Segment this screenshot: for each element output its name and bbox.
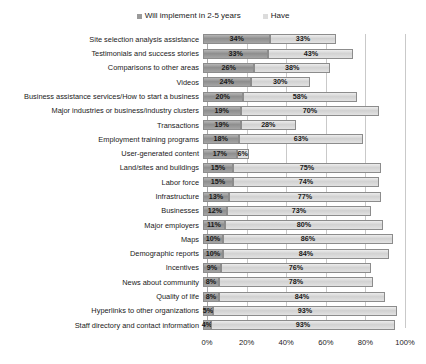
bar-segment-will-implement[interactable]: 9%	[203, 263, 221, 273]
bar-row: Labor force15%74%	[0, 175, 426, 190]
bar-value-label: 17%	[213, 150, 227, 158]
bar-segment-will-implement[interactable]: 12%	[203, 206, 227, 216]
bar-value-label: 78%	[289, 278, 303, 286]
bar-track: 26%38%	[203, 63, 401, 73]
bar-segment-will-implement[interactable]: 11%	[203, 220, 225, 230]
bar-row: News about community8%78%	[0, 275, 426, 290]
x-axis-tick-label: 60%	[318, 338, 333, 348]
bar-segment-will-implement[interactable]: 33%	[203, 49, 268, 59]
bar-value-label: 86%	[301, 235, 315, 243]
category-label: Demographic reports	[0, 249, 203, 258]
bar-segment-have[interactable]: 70%	[241, 106, 380, 116]
bar-value-label: 19%	[215, 107, 229, 115]
bar-track: 10%84%	[203, 249, 401, 259]
bar-value-label: 15%	[211, 178, 225, 186]
bar-value-label: 58%	[293, 93, 307, 101]
bar-segment-have[interactable]: 78%	[219, 277, 373, 287]
x-axis: 0%20%40%60%80%100%	[207, 336, 405, 350]
bar-segment-will-implement[interactable]: 19%	[203, 106, 241, 116]
bar-value-label: 84%	[295, 293, 309, 301]
bar-row: User-generated content17%6%	[0, 146, 426, 161]
bar-track: 13%77%	[203, 192, 401, 202]
category-label: Site selection analysis assistance	[0, 35, 203, 44]
bar-row: Maps10%86%	[0, 232, 426, 247]
bar-row: Site selection analysis assistance34%33%	[0, 32, 426, 47]
category-label: Maps	[0, 235, 203, 244]
legend-item-will-implement: Will implement in 2-5 years	[137, 11, 241, 21]
bar-segment-have[interactable]: 75%	[233, 163, 382, 173]
bar-segment-have[interactable]: 84%	[219, 292, 385, 302]
bar-value-label: 93%	[298, 307, 312, 315]
legend-item-label: Will implement in 2-5 years	[145, 11, 241, 21]
bar-segment-will-implement[interactable]: 17%	[203, 149, 237, 159]
bar-segment-will-implement[interactable]: 19%	[203, 120, 241, 130]
bar-segment-will-implement[interactable]: 20%	[203, 92, 243, 102]
bar-segment-have[interactable]: 30%	[251, 77, 310, 87]
bar-segment-have[interactable]: 33%	[270, 34, 335, 44]
category-label: Comparisons to other areas	[0, 63, 203, 72]
bar-row: Hyperlinks to other organizations5%93%	[0, 303, 426, 318]
bar-segment-will-implement[interactable]: 8%	[203, 277, 219, 287]
bar-row: Staff directory and contact information4…	[0, 318, 426, 333]
bar-value-label: 93%	[296, 321, 310, 329]
bar-track: 12%73%	[203, 206, 401, 216]
category-label: News about community	[0, 278, 203, 287]
bar-segment-have[interactable]: 93%	[213, 306, 397, 316]
bar-segment-will-implement[interactable]: 18%	[203, 134, 239, 144]
legend-item-have: Have	[263, 11, 290, 21]
bar-rows: Site selection analysis assistance34%33%…	[0, 32, 426, 332]
bar-segment-will-implement[interactable]: 4%	[203, 320, 211, 330]
legend-square-icon	[137, 14, 142, 19]
bar-track: 19%70%	[203, 106, 401, 116]
bar-segment-have[interactable]: 6%	[237, 149, 249, 159]
bar-segment-have[interactable]: 80%	[225, 220, 383, 230]
bar-segment-will-implement[interactable]: 15%	[203, 163, 233, 173]
bar-segment-will-implement[interactable]: 13%	[203, 192, 229, 202]
bar-value-label: 76%	[289, 264, 303, 272]
bar-segment-have[interactable]: 58%	[243, 92, 358, 102]
category-label: Quality of life	[0, 292, 203, 301]
chart-legend: Will implement in 2-5 years Have	[0, 8, 426, 24]
bar-track: 4%93%	[203, 320, 401, 330]
stacked-bar-chart: Site selection analysis assistance34%33%…	[0, 30, 426, 336]
bar-segment-will-implement[interactable]: 8%	[203, 292, 219, 302]
bar-track: 33%43%	[203, 49, 401, 59]
bar-segment-will-implement[interactable]: 10%	[203, 234, 223, 244]
category-label: Businesses	[0, 206, 203, 215]
bar-segment-have[interactable]: 74%	[233, 177, 380, 187]
bar-segment-will-implement[interactable]: 15%	[203, 177, 233, 187]
bar-track: 11%80%	[203, 220, 401, 230]
bar-segment-have[interactable]: 63%	[239, 134, 364, 144]
bar-segment-will-implement[interactable]: 34%	[203, 34, 270, 44]
bar-track: 18%63%	[203, 134, 401, 144]
bar-value-label: 74%	[299, 178, 313, 186]
bar-segment-have[interactable]: 73%	[227, 206, 372, 216]
bar-track: 19%28%	[203, 120, 401, 130]
category-label: Major employers	[0, 221, 203, 230]
bar-track: 8%78%	[203, 277, 401, 287]
bar-segment-will-implement[interactable]: 10%	[203, 249, 223, 259]
bar-segment-have[interactable]: 93%	[211, 320, 395, 330]
bar-segment-have[interactable]: 84%	[223, 249, 389, 259]
bar-track: 10%86%	[203, 234, 401, 244]
bar-value-label: 8%	[206, 293, 216, 301]
bar-segment-have[interactable]: 38%	[254, 63, 329, 73]
bar-segment-will-implement[interactable]: 5%	[203, 306, 213, 316]
bar-segment-have[interactable]: 86%	[223, 234, 393, 244]
bar-value-label: 63%	[294, 135, 308, 143]
bar-row: Transactions19%28%	[0, 118, 426, 133]
bar-value-label: 19%	[215, 121, 229, 129]
bar-segment-will-implement[interactable]: 24%	[203, 77, 251, 87]
legend-item-label: Have	[271, 11, 290, 21]
bar-row: Demographic reports10%84%	[0, 246, 426, 261]
bar-value-label: 10%	[206, 250, 220, 258]
bar-segment-have[interactable]: 43%	[268, 49, 353, 59]
bar-segment-have[interactable]: 28%	[241, 120, 296, 130]
bar-segment-have[interactable]: 76%	[221, 263, 371, 273]
bar-value-label: 20%	[216, 93, 230, 101]
category-label: Transactions	[0, 121, 203, 130]
bar-segment-will-implement[interactable]: 26%	[203, 63, 254, 73]
bar-value-label: 43%	[304, 50, 318, 58]
bar-segment-have[interactable]: 77%	[229, 192, 381, 202]
bar-value-label: 6%	[237, 150, 247, 158]
